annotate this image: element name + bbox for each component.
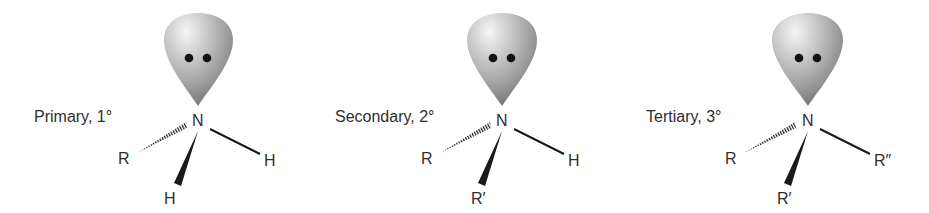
plain-bond	[514, 129, 564, 154]
lone-pair-electron-icon	[795, 54, 804, 63]
lone-pair-orbital-lobe	[467, 13, 537, 106]
atom-nitrogen: N	[802, 112, 814, 129]
wedge-bond	[784, 131, 808, 186]
lone-pair-electron-icon	[203, 54, 212, 63]
lone-pair-electron-icon	[507, 54, 516, 63]
substituent-wedge: R′	[471, 190, 486, 207]
amine-classification-diagram: Primary, 1° N R H H Secondary, 2° N R H …	[0, 0, 929, 213]
lone-pair-electron-icon	[489, 54, 498, 63]
class-label-secondary: Secondary, 2°	[335, 108, 435, 125]
lone-pair-electron-icon	[813, 54, 822, 63]
substituent-wedge: R′	[777, 190, 792, 207]
plain-bond	[820, 129, 870, 154]
substituent-hashed: R	[725, 150, 737, 167]
hashed-bond	[744, 122, 796, 153]
hashed-bond	[440, 122, 491, 153]
wedge-bond	[174, 131, 198, 186]
atom-nitrogen: N	[496, 112, 508, 129]
substituent-wedge: H	[164, 190, 176, 207]
wedge-bond	[478, 131, 502, 186]
molecule-secondary: Secondary, 2° N R H R′	[335, 13, 580, 207]
substituent-hashed: R	[118, 150, 130, 167]
plain-bond	[210, 129, 260, 154]
lone-pair-orbital-lobe	[772, 13, 843, 106]
atom-nitrogen: N	[192, 112, 204, 129]
molecule-tertiary: Tertiary, 3° N R R″ R′	[646, 13, 892, 207]
class-label-primary: Primary, 1°	[34, 108, 112, 125]
molecule-primary: Primary, 1° N R H H	[34, 13, 276, 207]
substituent-plain: H	[264, 152, 276, 169]
substituent-plain: R″	[874, 152, 892, 169]
class-label-tertiary: Tertiary, 3°	[646, 108, 721, 125]
lone-pair-orbital-lobe	[164, 13, 233, 106]
hashed-bond	[137, 122, 187, 153]
substituent-hashed: R	[421, 150, 433, 167]
lone-pair-electron-icon	[185, 54, 194, 63]
substituent-plain: H	[568, 152, 580, 169]
